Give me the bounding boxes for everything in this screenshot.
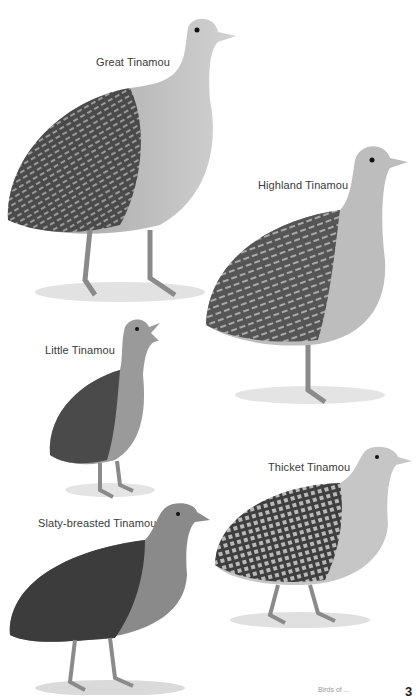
running-footer-text: Birds of ... <box>318 686 350 693</box>
little-tinamou-illustration <box>45 315 165 500</box>
page-number: 3 <box>405 684 412 699</box>
slaty-breasted-tinamou-illustration <box>5 500 215 695</box>
thicket-tinamou-illustration <box>210 445 417 630</box>
highland-tinamou-illustration <box>200 140 417 410</box>
